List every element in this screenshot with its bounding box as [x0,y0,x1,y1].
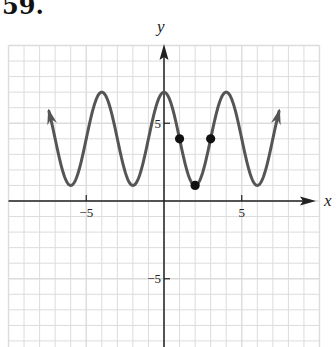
y-tick-label: −5 [147,271,161,286]
data-point [206,134,215,143]
graph: xy −555−5 [0,0,336,347]
data-point [175,134,184,143]
x-tick-label: 5 [239,205,246,220]
axes: xy [9,17,333,347]
y-axis-label: y [155,17,165,36]
y-tick-label: 5 [155,116,162,131]
x-tick-label: −5 [79,205,93,220]
data-point [191,181,200,190]
x-axis-label: x [323,191,332,210]
